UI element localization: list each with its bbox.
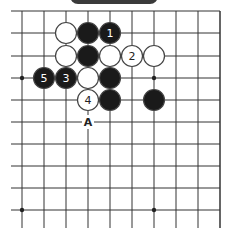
- black-stone: 1: [100, 23, 121, 44]
- black-stone: [78, 23, 99, 44]
- black-stone: 3: [56, 68, 77, 89]
- black-stone: [144, 90, 165, 111]
- white-stone: [56, 46, 77, 67]
- star-point: [152, 76, 156, 80]
- move-number: 2: [129, 50, 136, 63]
- white-stone: 4: [78, 90, 99, 111]
- black-stone: [100, 68, 121, 89]
- white-stone: [56, 23, 77, 44]
- move-number: 3: [63, 72, 70, 85]
- white-stone: [144, 46, 165, 67]
- move-number: 1: [107, 27, 114, 40]
- stones: 12534: [34, 23, 165, 111]
- board-markers: A: [82, 115, 94, 129]
- star-point: [152, 208, 156, 212]
- board-grid: [11, 11, 220, 228]
- white-stone: 2: [122, 46, 143, 67]
- star-point: [20, 208, 24, 212]
- move-number: 4: [85, 94, 92, 107]
- move-number: 5: [41, 72, 48, 85]
- white-stone: [100, 46, 121, 67]
- point-label: A: [84, 116, 93, 129]
- go-board: 12534 A: [0, 0, 229, 235]
- black-stone: 5: [34, 68, 55, 89]
- black-stone: [100, 90, 121, 111]
- white-stone: [78, 68, 99, 89]
- black-stone: [78, 46, 99, 67]
- star-point: [20, 76, 24, 80]
